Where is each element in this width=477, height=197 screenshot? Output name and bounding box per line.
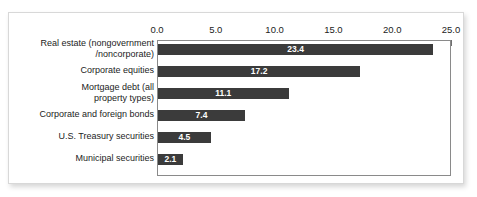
category-label: Corporate equities [13, 65, 154, 76]
category-label: Real estate (nongovernment /noncorporate… [13, 38, 154, 59]
bar-value-label: 7.4 [158, 110, 245, 121]
category-label: Municipal securities [13, 153, 154, 164]
bar-value-label: 2.1 [158, 154, 183, 165]
x-tick-label: 25.0 [431, 24, 471, 36]
x-tick-mark [451, 40, 452, 46]
x-tick-label: 0.0 [137, 24, 177, 36]
figure-card: 0.05.010.015.020.025.0 23.417.211.17.44.… [8, 12, 464, 184]
bar-value-label: 11.1 [158, 88, 289, 99]
category-axis-labels: Real estate (nongovernment /noncorporate… [13, 40, 154, 176]
bar-value-label: 17.2 [158, 66, 360, 77]
x-tick-label: 5.0 [196, 24, 236, 36]
category-label: Mortgage debt (all property types) [13, 82, 154, 103]
bar-value-label: 4.5 [158, 132, 211, 143]
x-axis-tick-labels: 0.05.010.015.020.025.0 [9, 24, 465, 38]
x-tick-label: 15.0 [313, 24, 353, 36]
category-label: U.S. Treasury securities [13, 131, 154, 142]
bar-value-label: 23.4 [158, 44, 433, 55]
category-label: Corporate and foreign bonds [13, 109, 154, 120]
plot-frame: 23.417.211.17.44.52.1 [157, 40, 451, 176]
x-tick-label: 20.0 [372, 24, 412, 36]
bar-chart: 0.05.010.015.020.025.0 23.417.211.17.44.… [9, 13, 465, 185]
x-tick-label: 10.0 [255, 24, 295, 36]
